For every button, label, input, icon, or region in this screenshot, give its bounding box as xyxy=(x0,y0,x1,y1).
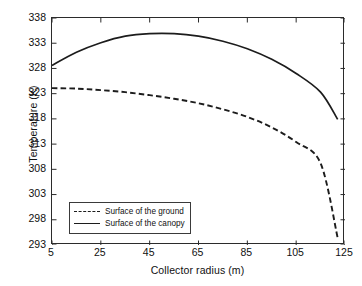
y-tick-label: 328 xyxy=(6,62,46,73)
legend-line-glyph xyxy=(74,223,100,224)
legend-line-sample xyxy=(74,219,100,229)
chart-figure: Temperature (K) 293298303308313318323328… xyxy=(0,0,362,286)
legend-item-1: Surface of the ground xyxy=(74,206,185,218)
y-tick-label: 308 xyxy=(6,163,46,174)
x-tick-label: 85 xyxy=(226,247,266,258)
legend-label: Surface of the canopy xyxy=(105,220,185,228)
x-axis-label: Collector radius (m) xyxy=(51,264,344,276)
legend-line-glyph xyxy=(74,211,100,212)
x-tick-label: 45 xyxy=(129,247,169,258)
y-tick-label: 318 xyxy=(6,112,46,123)
y-tick-label: 338 xyxy=(6,12,46,23)
series-line-2 xyxy=(52,33,338,119)
legend-item-2: Surface of the canopy xyxy=(74,218,185,230)
x-tick-label: 25 xyxy=(80,247,120,258)
y-tick-label: 303 xyxy=(6,188,46,199)
x-tick-label: 125 xyxy=(324,247,362,258)
y-tick-label: 333 xyxy=(6,37,46,48)
legend-line-sample xyxy=(74,207,100,217)
chart-legend: Surface of the groundSurface of the cano… xyxy=(69,202,191,234)
x-tick-label: 5 xyxy=(31,247,71,258)
x-tick-label: 65 xyxy=(178,247,218,258)
y-tick-label: 323 xyxy=(6,87,46,98)
legend-label: Surface of the ground xyxy=(105,208,184,216)
x-tick-label: 105 xyxy=(275,247,315,258)
y-tick-label: 298 xyxy=(6,213,46,224)
y-tick-label: 313 xyxy=(6,138,46,149)
